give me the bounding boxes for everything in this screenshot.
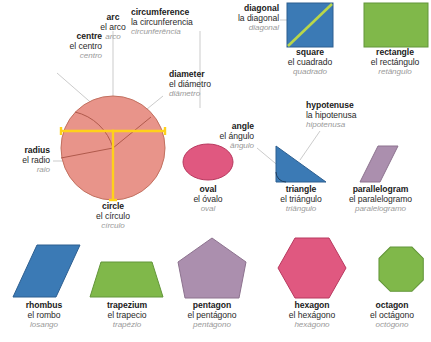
label-diameter-pt: diâmetro [169,89,259,98]
label-rectangle: rectangle el rectángulo retângulo [355,48,431,76]
label-pentagon-pt: pentágono [172,320,252,329]
rhombus-shape [13,245,80,297]
label-pentagon-es: el pentágono [172,311,252,321]
triangle-shape [276,146,326,182]
leader-line-hypotenuse [300,131,320,160]
label-triangle-es: el triángulo [261,195,341,205]
pentagon-shape [178,238,246,298]
label-radius: radius el radio raio [0,146,50,174]
label-rhombus-pt: losango [4,320,84,329]
label-trapezium-es: el trapecio [87,311,167,321]
label-diagonal-es: la diagonal [209,14,279,24]
label-centre-es: el centro [0,42,102,52]
label-octagon-es: el octágono [352,311,431,321]
label-square-es: el cuadrado [270,58,350,68]
label-angle-pt: ângulo [192,141,254,150]
label-hexagon: hexagon el hexágono hexágono [272,301,352,329]
label-square: square el cuadrado quadrado [270,48,350,76]
label-rhombus: rhombus el rombo losango [4,301,84,329]
octagon-shape [379,247,423,291]
label-trapezium: trapezium el trapecio trapézio [87,301,167,329]
label-hypotenuse: hypotenuse la hipotenusa hipotenusa [306,101,396,129]
label-hexagon-es: el hexágono [272,311,352,321]
label-square-pt: quadrado [270,67,350,76]
label-parallelogram-pt: paralelogramo [330,204,431,213]
label-oval-es: el óvalo [168,195,248,205]
label-triangle: triangle el triángulo triângulo [261,185,341,213]
label-centre-pt: centro [0,51,102,60]
label-hypotenuse-pt: hipotenusa [306,120,396,129]
label-triangle-pt: triângulo [261,204,341,213]
square-shape [287,3,333,47]
label-parallelogram: parallelogram el paralelogramo paralelog… [330,185,431,213]
label-oval: oval el óvalo oval [168,185,248,213]
label-octagon: octagon el octágono octógono [352,301,431,329]
label-rhombus-es: el rombo [4,311,84,321]
label-diagonal: diagonal la diagonal diagonal [209,4,279,32]
label-hexagon-pt: hexágono [272,320,352,329]
label-circle-pt: círculo [73,221,153,230]
circle-centre-dot [111,129,114,132]
label-radius-es: el radio [0,156,50,166]
label-rectangle-es: el rectángulo [355,58,431,68]
label-oval-pt: oval [168,204,248,213]
label-pentagon: pentagon el pentágono pentágono [172,301,252,329]
label-rectangle-pt: retângulo [355,67,431,76]
label-angle-es: el ángulo [192,132,254,142]
label-circle-es: el círculo [73,212,153,222]
label-radius-pt: raio [0,165,50,174]
hexagon-shape [278,238,346,298]
label-diameter: diameter el diámetro diâmetro [169,70,259,98]
label-diameter-es: el diámetro [169,80,259,90]
label-octagon-pt: octógono [352,320,431,329]
parallelogram-shape [360,146,398,182]
label-hypotenuse-es: la hipotenusa [306,111,396,121]
circle-shape [61,96,165,200]
label-diagonal-pt: diagonal [209,23,279,32]
label-circle: circle el círculo círculo [73,202,153,230]
triangle-outline [276,146,326,182]
trapezium-shape [90,262,163,297]
geometry-shapes-diagram: centre el centro centro arc el arco arco… [0,0,431,342]
label-parallelogram-es: el paralelogramo [330,195,431,205]
label-trapezium-pt: trapézio [87,320,167,329]
label-angle: angle el ángulo ângulo [192,122,254,150]
rectangle-shape [364,3,428,47]
